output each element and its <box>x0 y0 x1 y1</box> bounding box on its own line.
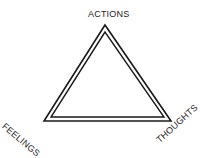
triangle-inner <box>51 32 164 117</box>
label-actions: ACTIONS <box>88 10 129 19</box>
triangle-diagram <box>0 0 210 158</box>
triangle-outer <box>44 25 171 121</box>
